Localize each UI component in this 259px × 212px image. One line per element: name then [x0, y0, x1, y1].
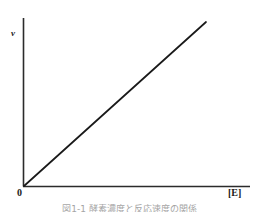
- data-line-series-1: [24, 22, 206, 186]
- figure-caption: 図1-1 酵素濃度と反応速度の関係: [0, 204, 259, 212]
- y-axis-label: v: [11, 29, 15, 38]
- plot-area: [0, 0, 259, 212]
- origin-label: 0: [17, 188, 22, 198]
- figure-container: v [E] 0 図1-1 酵素濃度と反応速度の関係: [0, 0, 259, 212]
- x-axis-label: [E]: [228, 188, 241, 198]
